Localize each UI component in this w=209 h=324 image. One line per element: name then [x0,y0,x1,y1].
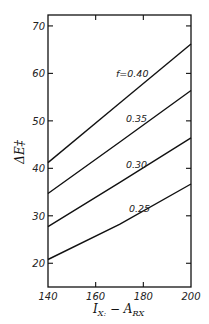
curve-label: 0.35 [126,113,147,124]
y-tick-label: 40 [32,163,45,174]
curve-030 [48,138,191,227]
y-tick-label: 30 [32,211,45,222]
y-tick-label: 70 [32,21,45,32]
y-tick-label: 60 [32,68,45,79]
x-tick-label: 180 [134,291,153,302]
curve-label: 0.30 [126,159,147,170]
x-tick-label: 160 [86,291,105,302]
x-axis-title: IX: − ARX [92,302,145,318]
x-tick-label: 200 [181,291,200,302]
tick-labels: 140160180200203040506070 [32,21,200,302]
curve-035 [48,91,191,194]
chart: 140160180200203040506070 f=0.400.350.300… [0,0,209,324]
y-axis-title: ΔE‡ [13,139,27,164]
curve-025 [48,184,191,260]
curve-f040 [48,44,191,163]
curve-label: 0.25 [129,203,150,214]
y-tick-label: 50 [32,116,45,127]
x-tick-label: 140 [38,291,57,302]
y-tick-label: 20 [32,258,45,269]
curve-label: f=0.40 [116,68,148,79]
